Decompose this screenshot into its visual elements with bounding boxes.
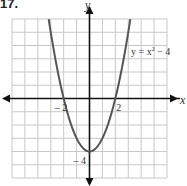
svg-text:– 2: – 2 <box>54 102 68 113</box>
x-axis-label: x <box>179 93 186 107</box>
axes <box>2 6 180 186</box>
equation-label: y = x2 − 4 <box>131 46 170 57</box>
svg-text:2: 2 <box>116 102 121 113</box>
function-graph: x y y = x2 − 4 – 22– 4 <box>0 0 187 186</box>
y-axis-label: y <box>84 0 91 12</box>
svg-text:– 4: – 4 <box>73 155 87 166</box>
